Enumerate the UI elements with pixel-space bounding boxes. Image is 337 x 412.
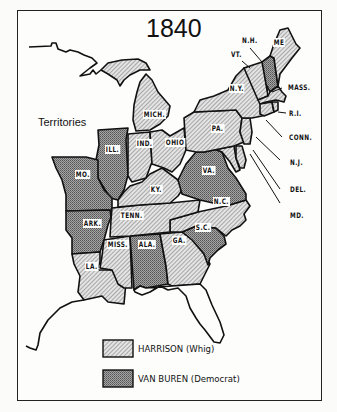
state-RI <box>272 102 278 112</box>
label-nj: N.J. <box>290 158 303 167</box>
label-ohio: OHIO <box>165 138 185 147</box>
gulf-coast-line <box>26 300 84 350</box>
label-ri: R.I. <box>289 109 302 118</box>
label-pa: PA. <box>211 124 224 133</box>
label-miss: MISS. <box>107 240 129 249</box>
label-sc: S.C. <box>195 223 211 232</box>
label-vt: VT. <box>231 50 242 59</box>
label-ill: ILL. <box>105 145 120 154</box>
legend-label-harrison: HARRISON (Whig) <box>138 343 214 354</box>
legend-swatch-vanburen <box>103 370 133 387</box>
map-title: 1840 <box>146 14 202 43</box>
leader-md <box>250 154 280 203</box>
label-mo: MO. <box>75 170 91 179</box>
leader-conn <box>266 120 282 137</box>
state-FL <box>134 284 224 343</box>
label-ark: ARK. <box>83 219 102 228</box>
label-del: DEL. <box>290 185 306 194</box>
label-la: LA. <box>85 262 98 271</box>
leader-nj <box>256 137 280 160</box>
label-ala: ALA. <box>138 240 156 249</box>
label-tenn: TENN. <box>120 211 143 220</box>
label-nc: N.C. <box>213 197 230 206</box>
legend-label-vanburen: VAN BUREN (Democrat) <box>138 373 240 384</box>
label-ky: KY. <box>150 185 163 194</box>
label-mass: MASS. <box>288 83 310 92</box>
label-ind: IND. <box>136 139 153 148</box>
label-mich: MICH. <box>143 110 166 119</box>
label-nh: N.H. <box>242 36 258 45</box>
label-va: VA. <box>202 166 216 175</box>
label-md: MD. <box>290 211 304 220</box>
territories-label: Territories <box>38 116 86 128</box>
label-me: ME <box>273 38 285 47</box>
label-conn: CONN. <box>289 133 312 142</box>
label-ga: GA. <box>172 236 186 245</box>
state-MI <box>133 74 170 131</box>
northern-border-line <box>29 43 101 76</box>
label-ny: N.Y. <box>229 84 245 93</box>
leader-ri <box>278 112 286 113</box>
state-OH <box>150 128 186 172</box>
leader-nh <box>250 48 262 62</box>
legend-swatch-harrison <box>103 340 133 357</box>
